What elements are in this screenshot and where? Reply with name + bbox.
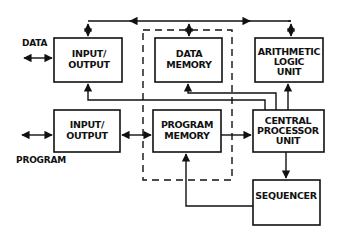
cpu-io-top-arrow [88, 84, 265, 110]
sequencer-label: SEQUENCER [255, 190, 318, 201]
block-sequencer: SEQUENCER [253, 180, 320, 225]
program-memory-line1: PROGRAM [161, 119, 213, 130]
sequencer-program-memory-arrow [186, 154, 253, 206]
block-program-memory: PROGRAM MEMORY [153, 110, 221, 152]
data-memory-line2: MEMORY [166, 59, 212, 70]
microcomputer-block-diagram: INPUT/ OUTPUT DATA MEMORY ARITHMETIC LOG… [0, 0, 341, 238]
io-top-line1: INPUT/ [72, 48, 107, 59]
top-data-bus [88, 21, 291, 36]
data-memory-line1: DATA [176, 48, 203, 59]
block-data-memory: DATA MEMORY [155, 38, 222, 82]
cpu-line3: UNIT [276, 135, 301, 146]
data-external-label: DATA [22, 38, 48, 48]
block-io-bottom: INPUT/ OUTPUT [54, 110, 120, 152]
io-bottom-line1: INPUT/ [70, 119, 105, 130]
block-alu: ARITHMETIC LOGIC UNIT [255, 38, 323, 82]
io-bottom-line2: OUTPUT [66, 130, 108, 141]
io-top-line2: OUTPUT [68, 59, 110, 70]
program-memory-line2: MEMORY [164, 130, 210, 141]
program-external-label: PROGRAM [16, 155, 66, 165]
alu-line3: UNIT [277, 66, 302, 77]
block-io-top: INPUT/ OUTPUT [54, 38, 122, 82]
block-cpu: CENTRAL PROCESSOR UNIT [253, 110, 324, 152]
